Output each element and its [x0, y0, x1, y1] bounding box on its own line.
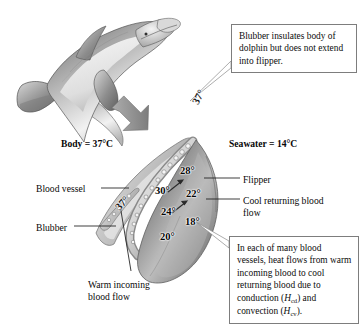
- label-warm-incoming-blood-flow: Warm incoming blood flow: [88, 279, 174, 302]
- callout-heat-flow-part1: In each of many blood vessels, heat flow…: [237, 243, 351, 303]
- seawater-temperature-label: Seawater = 14°C: [229, 138, 297, 149]
- temperature-point-24: 24°: [161, 206, 176, 217]
- dolphin-illustration: [17, 18, 180, 146]
- temperature-point-22: 22°: [186, 188, 201, 199]
- subscript-cd: cd: [291, 297, 297, 304]
- temperature-point-20: 20°: [160, 231, 175, 242]
- callout-heat-flow-part3: ).: [297, 306, 302, 316]
- flipper-cross-section: [96, 138, 218, 283]
- subscript-cv: cv: [290, 310, 296, 317]
- callout-heat-flow: In each of many blood vessels, heat flow…: [229, 236, 359, 324]
- temperature-point-28: 28°: [180, 165, 195, 176]
- label-flipper: Flipper: [243, 174, 271, 186]
- label-blubber: Blubber: [36, 222, 67, 234]
- temperature-point-18: 18°: [185, 216, 200, 227]
- temperature-point-30: 30°: [155, 185, 170, 196]
- symbol-h-conduction: H: [284, 293, 291, 303]
- callout-blubber-insulation: Blubber insulates body of dolphin but do…: [231, 24, 357, 73]
- label-blood-vessel: Blood vessel: [36, 183, 85, 195]
- body-temperature-label: Body = 37°C: [61, 138, 113, 149]
- label-cool-returning-blood-flow: Cool returning blood flow: [243, 195, 337, 218]
- figure-countercurrent-heat-exchange: Body = 37°C Seawater = 14°C Blood vessel…: [0, 0, 363, 333]
